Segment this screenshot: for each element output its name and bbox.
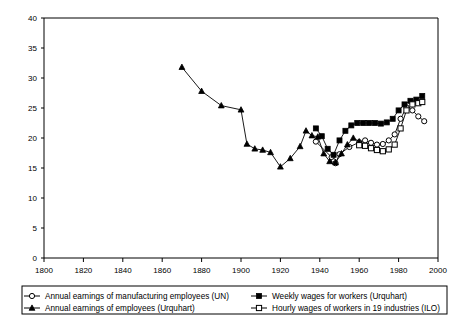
y-tick-label: 10 (28, 194, 37, 203)
legend-marker-open-square-icon (256, 305, 261, 310)
data-point-open-square-icon (392, 142, 397, 147)
data-point-filled-square-icon (325, 146, 330, 151)
data-point-open-square-icon (410, 102, 415, 107)
data-point-filled-square-icon (355, 121, 360, 126)
legend-label: Weekly wages for workers (Urquhart) (272, 292, 407, 301)
legend-label: Annual earnings of employees (Urquhart) (45, 304, 195, 313)
data-point-open-square-icon (368, 146, 373, 151)
data-point-open-circle-icon (392, 132, 397, 137)
y-tick-label: 25 (28, 104, 37, 113)
x-tick-label: 1920 (272, 266, 290, 275)
data-point-open-circle-icon (416, 114, 421, 119)
data-point-filled-square-icon (331, 152, 336, 157)
data-point-open-square-icon (404, 108, 409, 113)
data-point-open-circle-icon (368, 140, 373, 145)
x-tick-label: 1980 (390, 266, 408, 275)
legend-marker-filled-square-icon (257, 294, 262, 299)
y-tick-label: 15 (28, 164, 37, 173)
data-point-open-square-icon (357, 143, 362, 148)
x-tick-label: 2000 (429, 266, 447, 275)
x-tick-label: 1900 (232, 266, 250, 275)
data-point-filled-square-icon (396, 108, 401, 113)
data-point-open-square-icon (386, 147, 391, 152)
x-tick-label: 1940 (311, 266, 329, 275)
data-point-open-square-icon (420, 99, 425, 104)
legend-item-1: Weekly wages for workers (Urquhart) (251, 292, 407, 301)
data-point-open-circle-icon (386, 138, 391, 143)
data-point-open-circle-icon (313, 139, 318, 144)
chart-container: 0510152025303540 18001820184018601880190… (0, 0, 459, 326)
data-point-open-circle-icon (380, 141, 385, 146)
line-chart: 0510152025303540 18001820184018601880190… (0, 0, 459, 326)
data-point-open-square-icon (363, 143, 368, 148)
data-point-filled-square-icon (384, 120, 389, 125)
data-point-open-circle-icon (410, 108, 415, 113)
y-tick-label: 5 (33, 224, 38, 233)
data-point-open-square-icon (380, 149, 385, 154)
data-point-filled-square-icon (390, 116, 395, 121)
y-tick-label: 40 (28, 14, 37, 23)
y-tick-label: 30 (28, 74, 37, 83)
x-tick-label: 1840 (114, 266, 132, 275)
legend-item-0: Annual earnings of manufacturing employe… (24, 292, 229, 301)
legend-item-2: Annual earnings of employees (Urquhart) (24, 304, 195, 313)
x-tick-label: 1860 (153, 266, 171, 275)
data-point-filled-square-icon (343, 128, 348, 133)
legend-marker-open-circle-icon (29, 293, 34, 298)
legend-label: Hourly wages of workers in 19 industries… (272, 304, 440, 313)
y-tick-label: 0 (33, 254, 38, 263)
data-point-filled-square-icon (367, 121, 372, 126)
data-point-filled-square-icon (349, 123, 354, 128)
data-point-open-square-icon (374, 147, 379, 152)
y-tick-label: 20 (28, 134, 37, 143)
y-tick-label: 35 (28, 44, 37, 53)
data-point-open-circle-icon (363, 138, 368, 143)
x-tick-label: 1820 (75, 266, 93, 275)
data-point-filled-square-icon (337, 138, 342, 143)
legend-item-3: Hourly wages of workers in 19 industries… (251, 304, 440, 313)
data-point-open-circle-icon (422, 119, 427, 124)
data-point-open-circle-icon (374, 142, 379, 147)
chart-background (0, 0, 459, 326)
data-point-filled-square-icon (378, 121, 383, 126)
x-tick-label: 1800 (35, 266, 53, 275)
data-point-filled-square-icon (361, 121, 366, 126)
data-point-open-square-icon (398, 126, 403, 131)
x-tick-label: 1880 (193, 266, 211, 275)
data-point-open-circle-icon (398, 116, 403, 121)
data-point-filled-square-icon (372, 121, 377, 126)
data-point-filled-square-icon (420, 94, 425, 99)
data-point-filled-square-icon (402, 102, 407, 107)
data-point-filled-square-icon (313, 126, 318, 131)
x-tick-label: 1960 (350, 266, 368, 275)
legend-label: Annual earnings of manufacturing employe… (45, 292, 229, 301)
